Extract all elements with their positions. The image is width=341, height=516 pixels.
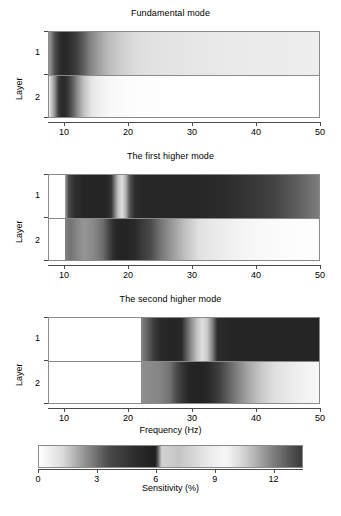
y-tick-label-2: 2 (28, 378, 40, 388)
colorbar-tick (215, 469, 216, 473)
x-tick-label: 30 (182, 270, 202, 280)
heatmap-row-layer-1 (49, 175, 319, 218)
x-axis-line (48, 408, 320, 409)
y-axis-label: Layer (14, 363, 24, 386)
colorbar-axis-line (38, 469, 303, 470)
x-tick (64, 265, 65, 269)
x-tick-label: 40 (246, 127, 266, 137)
panel-title: Fundamental mode (0, 8, 341, 18)
heatmap-row-layer-2 (49, 362, 319, 404)
frequency-axis-label: Frequency (Hz) (0, 425, 341, 435)
heatmap-panel-1 (48, 31, 320, 118)
y-tick-label-1: 1 (28, 190, 40, 200)
x-tick-label: 20 (118, 413, 138, 423)
heatmap-row-layer-1 (49, 32, 319, 75)
panel-fundamental-mode: Fundamental mode Layer 1 2 (0, 0, 341, 145)
panel-title: The second higher mode (0, 294, 341, 304)
y-axis-label: Layer (14, 77, 24, 100)
x-tick (64, 122, 65, 126)
x-tick-label: 40 (246, 270, 266, 280)
y-tick-label-1: 1 (28, 47, 40, 57)
figure-root: Fundamental mode Layer 1 2 The first hig… (0, 0, 341, 516)
x-tick-label: 20 (118, 270, 138, 280)
colorbar-tick (274, 469, 275, 473)
colorbar-tick (97, 469, 98, 473)
colorbar-gradient (38, 445, 303, 468)
heatmap-row-layer-2 (49, 219, 319, 261)
x-tick (128, 265, 129, 269)
x-tick (320, 265, 321, 269)
heatmap-row-layer-1 (49, 318, 319, 361)
x-tick (256, 265, 257, 269)
x-tick (128, 122, 129, 126)
x-tick (192, 122, 193, 126)
x-tick (64, 408, 65, 412)
x-tick (256, 122, 257, 126)
x-tick-label: 10 (54, 270, 74, 280)
x-tick-label: 10 (54, 127, 74, 137)
x-tick-label: 30 (182, 127, 202, 137)
y-tick-label-2: 2 (28, 92, 40, 102)
colorbar-axis-label: Sensitivity (%) (0, 483, 341, 493)
x-tick-label: 20 (118, 127, 138, 137)
y-tick-label-2: 2 (28, 235, 40, 245)
x-tick (320, 122, 321, 126)
x-tick (192, 408, 193, 412)
panel-first-higher-mode: The first higher mode Layer 1 2 (0, 145, 341, 290)
colorbar-tick (38, 469, 39, 473)
x-axis-line (48, 265, 320, 266)
heatmap-panel-2 (48, 174, 320, 261)
heatmap-row-layer-2 (49, 76, 319, 118)
colorbar-region: Frequency (Hz) 036912 Sensitivity (%) (0, 423, 341, 516)
panel-title: The first higher mode (0, 151, 341, 161)
heatmap-panel-3 (48, 317, 320, 404)
colorbar-tick (156, 469, 157, 473)
x-tick-label: 30 (182, 413, 202, 423)
x-axis-line (48, 122, 320, 123)
x-tick (128, 408, 129, 412)
x-tick-label: 50 (310, 127, 330, 137)
panel-second-higher-mode: The second higher mode Layer 1 2 1020304… (0, 288, 341, 423)
x-tick (320, 408, 321, 412)
x-tick (192, 265, 193, 269)
x-tick-label: 40 (246, 413, 266, 423)
x-tick-label: 10 (54, 413, 74, 423)
y-tick-label-1: 1 (28, 333, 40, 343)
x-tick-label: 50 (310, 413, 330, 423)
x-tick (256, 408, 257, 412)
x-tick-label: 50 (310, 270, 330, 280)
y-axis-label: Layer (14, 220, 24, 243)
